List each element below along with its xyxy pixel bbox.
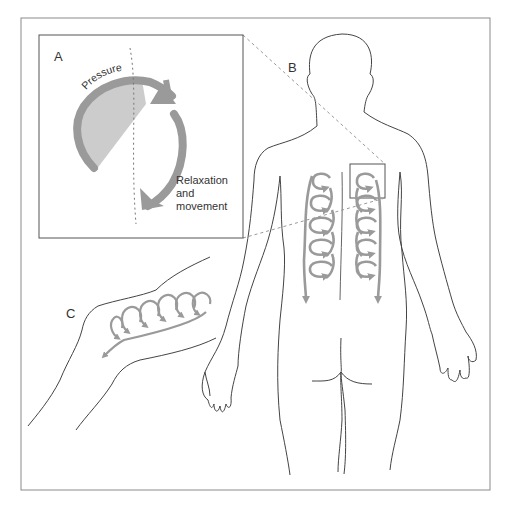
head-outline (307, 34, 373, 126)
relaxation-label-line-2: and (176, 187, 194, 199)
relaxation-label-line-1: Relaxation (176, 174, 228, 186)
left-inner-arm-outline (238, 176, 280, 366)
right-hand-outline (432, 334, 476, 382)
forearm-upper-outline (28, 257, 210, 426)
panel-label-c: C (66, 306, 75, 321)
relaxation-label-line-3: movement (176, 200, 227, 212)
connector-lines (243, 35, 385, 238)
left-paraspinal-spirals (304, 174, 334, 300)
inset-panel-a: A Pressure Relaxation and movement (39, 35, 243, 238)
torso-right-outline (390, 172, 407, 470)
massage-technique-diagram: B A Pressure Relaxation and movement (0, 0, 505, 515)
panel-c-forearm: C (28, 257, 216, 430)
right-inner-arm-outline (398, 172, 432, 334)
left-hand-outline (205, 366, 238, 412)
right-paraspinal-spirals (356, 174, 380, 300)
gluteal-cleft (338, 338, 346, 474)
torso-left-outline (278, 176, 290, 475)
panel-label-b: B (288, 60, 297, 75)
panel-label-a: A (54, 49, 63, 64)
spine-line (340, 172, 342, 300)
forearm-lower-outline (76, 338, 216, 430)
